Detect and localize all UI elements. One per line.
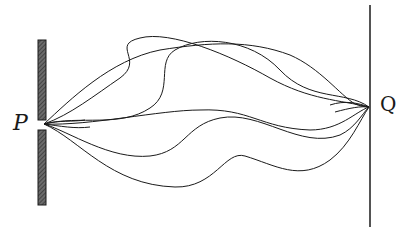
barrier-lower [38, 130, 46, 205]
path-3 [44, 44, 369, 124]
paths [44, 36, 369, 187]
path-6 [44, 107, 369, 187]
path-4 [44, 107, 369, 130]
label-p: P [13, 110, 28, 135]
path-2 [44, 41, 369, 124]
path-5 [44, 107, 369, 156]
path-1 [44, 36, 369, 124]
label-q: Q [380, 92, 396, 116]
barrier-upper [38, 40, 46, 120]
path-diagram [0, 0, 406, 237]
